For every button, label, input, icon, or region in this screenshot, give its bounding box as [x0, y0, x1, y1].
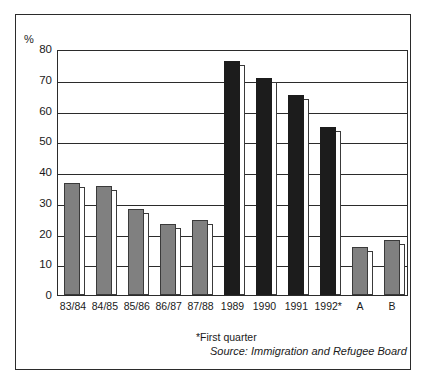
bar [320, 127, 341, 295]
x-axis-tick-label: 84/85 [92, 300, 118, 312]
bar-shadow [272, 82, 277, 295]
bar [64, 183, 85, 295]
bar-shadow [176, 228, 181, 295]
bar-body [128, 209, 144, 295]
bar-series [58, 51, 407, 295]
bar [192, 220, 213, 295]
bar-shadow [336, 131, 341, 295]
x-axis-tick-label: 1992* [314, 300, 341, 312]
bar-body [96, 186, 112, 295]
bar-shadow [400, 244, 405, 295]
bar-body [288, 95, 304, 295]
bar-body [352, 247, 368, 295]
y-axis-tick-label: 20 [39, 229, 52, 241]
y-axis-unit-label: % [24, 34, 34, 45]
y-axis-tick-label: 50 [39, 137, 52, 149]
y-axis-tick-label: 30 [39, 198, 52, 210]
bar-body [64, 183, 80, 295]
bar-body [256, 78, 272, 295]
bar [288, 95, 309, 295]
bar-body [160, 224, 176, 295]
y-axis-tick-label: 40 [39, 167, 52, 179]
bar-shadow [304, 99, 309, 295]
footnote-block: *First quarter Source: Immigration and R… [196, 331, 411, 358]
footnote-first-quarter: *First quarter [196, 331, 411, 344]
bar-shadow [368, 251, 373, 295]
plot-area [57, 50, 408, 296]
y-axis-tick-label: 10 [39, 260, 52, 272]
bar [384, 240, 405, 295]
y-axis-tick-labels: 01020304050607080 [20, 50, 52, 296]
bar-body [384, 240, 400, 295]
x-axis-tick-labels: 83/8484/8585/8686/8787/88198919901991199… [57, 300, 408, 316]
bar [256, 78, 277, 295]
bar-body [224, 61, 240, 295]
bar [96, 186, 117, 295]
y-axis-tick-label: 70 [39, 75, 52, 87]
bar-shadow [144, 213, 149, 295]
x-axis-tick-label: 1991 [285, 300, 308, 312]
bar-shadow [240, 65, 245, 295]
x-axis-tick-label: 86/87 [156, 300, 182, 312]
x-axis-tick-label: 1989 [221, 300, 244, 312]
x-axis-tick-label: 83/84 [60, 300, 86, 312]
x-axis-tick-label: 87/88 [187, 300, 213, 312]
bar-shadow [112, 190, 117, 295]
x-axis-tick-label: B [389, 300, 396, 312]
x-axis-tick-label: 85/86 [124, 300, 150, 312]
bar [224, 61, 245, 295]
y-axis-tick-label: 60 [39, 106, 52, 118]
footnote-source: Source: Immigration and Refugee Board [210, 345, 411, 358]
y-axis-tick-label: 0 [46, 290, 52, 302]
bar-body [320, 127, 336, 295]
bar [352, 247, 373, 295]
bar-body [192, 220, 208, 295]
x-axis-tick-label: 1990 [253, 300, 276, 312]
bar-shadow [80, 187, 85, 295]
y-axis-tick-label: 80 [39, 44, 52, 56]
x-axis-tick-label: A [357, 300, 364, 312]
bar [160, 224, 181, 295]
bar [128, 209, 149, 295]
bar-shadow [208, 224, 213, 295]
